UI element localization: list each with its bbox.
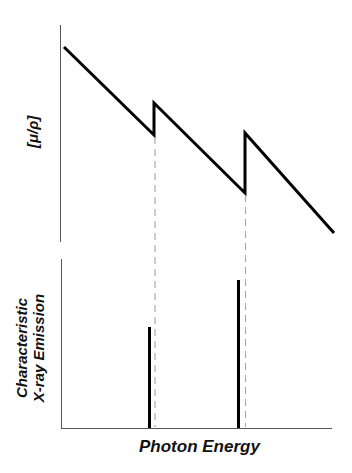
x-axis-label: Photon Energy [139,437,260,457]
diagram-canvas [0,0,352,473]
lower-y-label-line2: X-ray Emission [30,294,47,402]
attenuation-curve [64,47,334,233]
lower-y-label-line1: Characteristic [13,294,30,402]
lower-y-label: Characteristic X-ray Emission [13,294,47,402]
upper-y-label: [μ/ρ] [24,116,41,148]
